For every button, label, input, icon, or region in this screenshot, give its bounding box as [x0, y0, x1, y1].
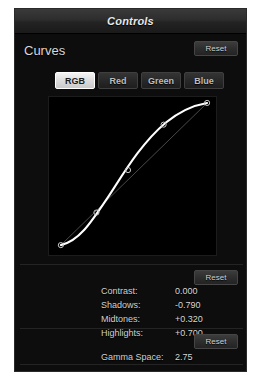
- section-divider: [20, 328, 243, 329]
- value-row-midtones: Midtones: +0.320: [15, 314, 246, 327]
- contrast-value: 0.000: [175, 286, 198, 296]
- window-title: Controls: [107, 15, 154, 27]
- curve-graph[interactable]: [48, 96, 217, 256]
- tab-blue[interactable]: Blue: [184, 72, 224, 89]
- gamma-space-value: 2.75: [175, 352, 193, 362]
- value-row-shadows: Shadows: -0.790: [15, 300, 246, 313]
- reset-curves-button[interactable]: Reset: [194, 41, 238, 56]
- controls-panel: Controls Curves Reset RGB Red Green Blue: [14, 8, 247, 372]
- tab-green[interactable]: Green: [141, 72, 181, 89]
- reference-diagonal-line: [61, 103, 207, 245]
- section-divider: [20, 264, 243, 265]
- tab-red[interactable]: Red: [98, 72, 138, 89]
- shadows-value: -0.790: [175, 300, 201, 310]
- value-row-contrast: Contrast: 0.000: [15, 286, 246, 299]
- gamma-space-label: Gamma Space:: [101, 352, 164, 362]
- tab-rgb[interactable]: RGB: [55, 72, 95, 89]
- section-divider: [20, 364, 243, 365]
- channel-tabs: RGB Red Green Blue: [55, 72, 224, 89]
- reset-values-button[interactable]: Reset: [194, 270, 238, 285]
- curves-heading: Curves: [24, 43, 65, 58]
- window-titlebar: Controls: [15, 9, 246, 34]
- curve-graph-svg: [49, 97, 216, 255]
- midtones-value: +0.320: [175, 314, 203, 324]
- reset-gamma-button[interactable]: Reset: [194, 334, 238, 349]
- panel-body: Curves Reset RGB Red Green Blue: [15, 34, 246, 372]
